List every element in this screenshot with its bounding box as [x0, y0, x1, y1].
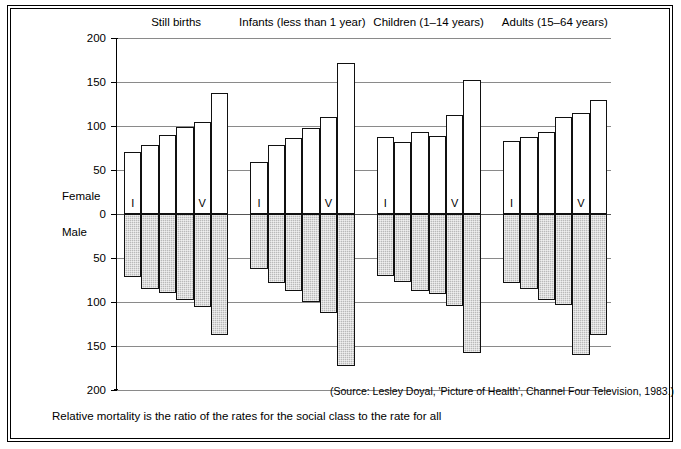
bar-male: [141, 214, 158, 289]
class-label-IV: V: [194, 198, 211, 209]
y-axis-tick: [111, 126, 117, 127]
y-axis-tick: [111, 390, 117, 391]
bar-female: [411, 132, 428, 214]
plot-area: IVIVIVIV: [116, 38, 611, 390]
bar-female: [520, 137, 537, 214]
class-label-IV: V: [572, 198, 589, 209]
bar-female: [285, 138, 302, 214]
bar-male: [429, 214, 446, 294]
bar-male: [520, 214, 537, 289]
y-axis-tick-label: 150: [87, 76, 106, 88]
bar-female: [302, 128, 319, 214]
bar-male: [555, 214, 572, 305]
bar-male: [538, 214, 555, 300]
gridline: [116, 346, 611, 347]
bar-male: [159, 214, 176, 293]
class-label-I: I: [377, 198, 394, 209]
y-axis-tick-label: 50: [93, 252, 106, 264]
bar-male: [411, 214, 428, 291]
bar-female: [538, 132, 555, 214]
bar-male: [337, 214, 354, 366]
y-axis-tick: [111, 214, 117, 215]
y-axis-tick-label: 100: [87, 120, 106, 132]
bar-male: [211, 214, 228, 335]
group-header-row: Still birthsInfants (less than 1 year)Ch…: [116, 16, 616, 34]
bar-female: [394, 142, 411, 214]
bar-female: [429, 136, 446, 214]
bar-female: [337, 63, 354, 214]
source-note: (Source: Lesley Doyal, 'Picture of Healt…: [330, 385, 674, 398]
bar-male: [590, 214, 607, 335]
class-label-I: I: [503, 198, 520, 209]
y-axis-tick-label: 200: [87, 32, 106, 44]
bar-male: [377, 214, 394, 276]
axis-cap: [114, 389, 118, 390]
bar-female: [141, 145, 158, 214]
y-axis-tick: [111, 302, 117, 303]
class-label-I: I: [250, 198, 267, 209]
y-axis-tick-label: 150: [87, 340, 106, 352]
class-label-IV: V: [320, 198, 337, 209]
bar-male: [285, 214, 302, 291]
bar-female: [159, 135, 176, 214]
bar-male: [124, 214, 141, 277]
bar-male: [463, 214, 480, 353]
bar-female: [590, 100, 607, 214]
bar-male: [250, 214, 267, 269]
y-axis-tick-label: 100: [87, 296, 106, 308]
y-axis-tick: [111, 258, 117, 259]
female-axis-label: Female: [62, 190, 100, 202]
bar-male: [446, 214, 463, 306]
bar-male: [320, 214, 337, 313]
bar-female: [463, 80, 480, 214]
bar-male: [394, 214, 411, 282]
bar-female: [176, 127, 193, 214]
figure-caption: Relative mortality is the ratio of the r…: [52, 409, 441, 423]
y-axis-tick: [111, 170, 117, 171]
bar-female: [211, 93, 228, 214]
axis-cap: [114, 38, 118, 39]
bar-male: [176, 214, 193, 300]
bar-male: [268, 214, 285, 283]
gridline: [116, 302, 611, 303]
group-header-label: Adults (15–64 years): [481, 16, 629, 29]
y-axis-tick-labels: 20015010050050100150200: [0, 38, 112, 390]
y-axis-tick-label: 0: [100, 208, 106, 220]
gridline: [116, 38, 611, 39]
y-axis-tick-label: 200: [87, 384, 106, 396]
y-axis-tick-label: 50: [93, 164, 106, 176]
y-axis-tick: [111, 346, 117, 347]
gridline: [116, 82, 611, 83]
bar-female: [268, 145, 285, 214]
y-axis-tick: [111, 82, 117, 83]
bar-male: [194, 214, 211, 307]
figure-page: Still birthsInfants (less than 1 year)Ch…: [0, 0, 681, 449]
bar-female: [555, 117, 572, 214]
class-label-IV: V: [446, 198, 463, 209]
bar-male: [572, 214, 589, 355]
male-axis-label: Male: [62, 226, 87, 238]
class-label-I: I: [124, 198, 141, 209]
bar-male: [503, 214, 520, 283]
bar-male: [302, 214, 319, 302]
